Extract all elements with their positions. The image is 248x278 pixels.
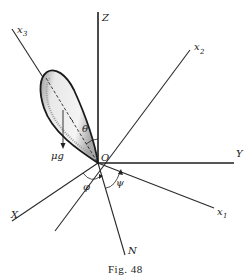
phi-label: φ	[83, 181, 90, 192]
x-axis-label: X	[10, 209, 19, 220]
weight-label: μg	[51, 150, 64, 161]
x3-axis-subscript: 3	[23, 30, 28, 38]
x-axis	[12, 163, 98, 221]
theta-label: θ	[82, 123, 88, 134]
figure-caption: Fig. 48	[108, 263, 143, 275]
psi-label: ψ	[116, 177, 124, 188]
z-axis-label: Z	[101, 12, 110, 23]
y-axis-label: Y	[236, 148, 244, 159]
origin-label: O	[101, 152, 109, 163]
phi-arc	[83, 173, 101, 179]
x2-axis-subscript: 2	[199, 48, 205, 56]
n-axis-label: N	[127, 245, 138, 256]
x1-axis-subscript: 1	[223, 212, 227, 220]
weight-arrow-icon	[61, 143, 66, 149]
figure-48-diagram: Z x 3 x 2 Y x 1 X N μg θ O φ ψ Fig. 48	[0, 0, 248, 278]
